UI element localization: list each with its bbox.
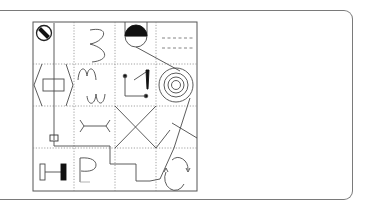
dashed-lines-icon <box>162 38 194 48</box>
half-filled-circle-icon <box>125 22 147 47</box>
exclamation-dots-icon <box>123 70 149 98</box>
hexagon-rectangle-icon <box>34 64 73 106</box>
circle-bar-icon <box>37 26 52 41</box>
letter-p-icon <box>80 158 96 182</box>
double-y-connector-icon <box>80 120 110 132</box>
dumbbell-icon <box>40 164 66 180</box>
memory-test-figure-grid <box>0 0 366 212</box>
diagonal-connector-line <box>136 47 180 71</box>
spiral-icon <box>150 68 197 181</box>
s-curve-icon <box>90 29 105 62</box>
wave-icon <box>78 69 105 103</box>
x-cross-icon <box>115 106 170 148</box>
